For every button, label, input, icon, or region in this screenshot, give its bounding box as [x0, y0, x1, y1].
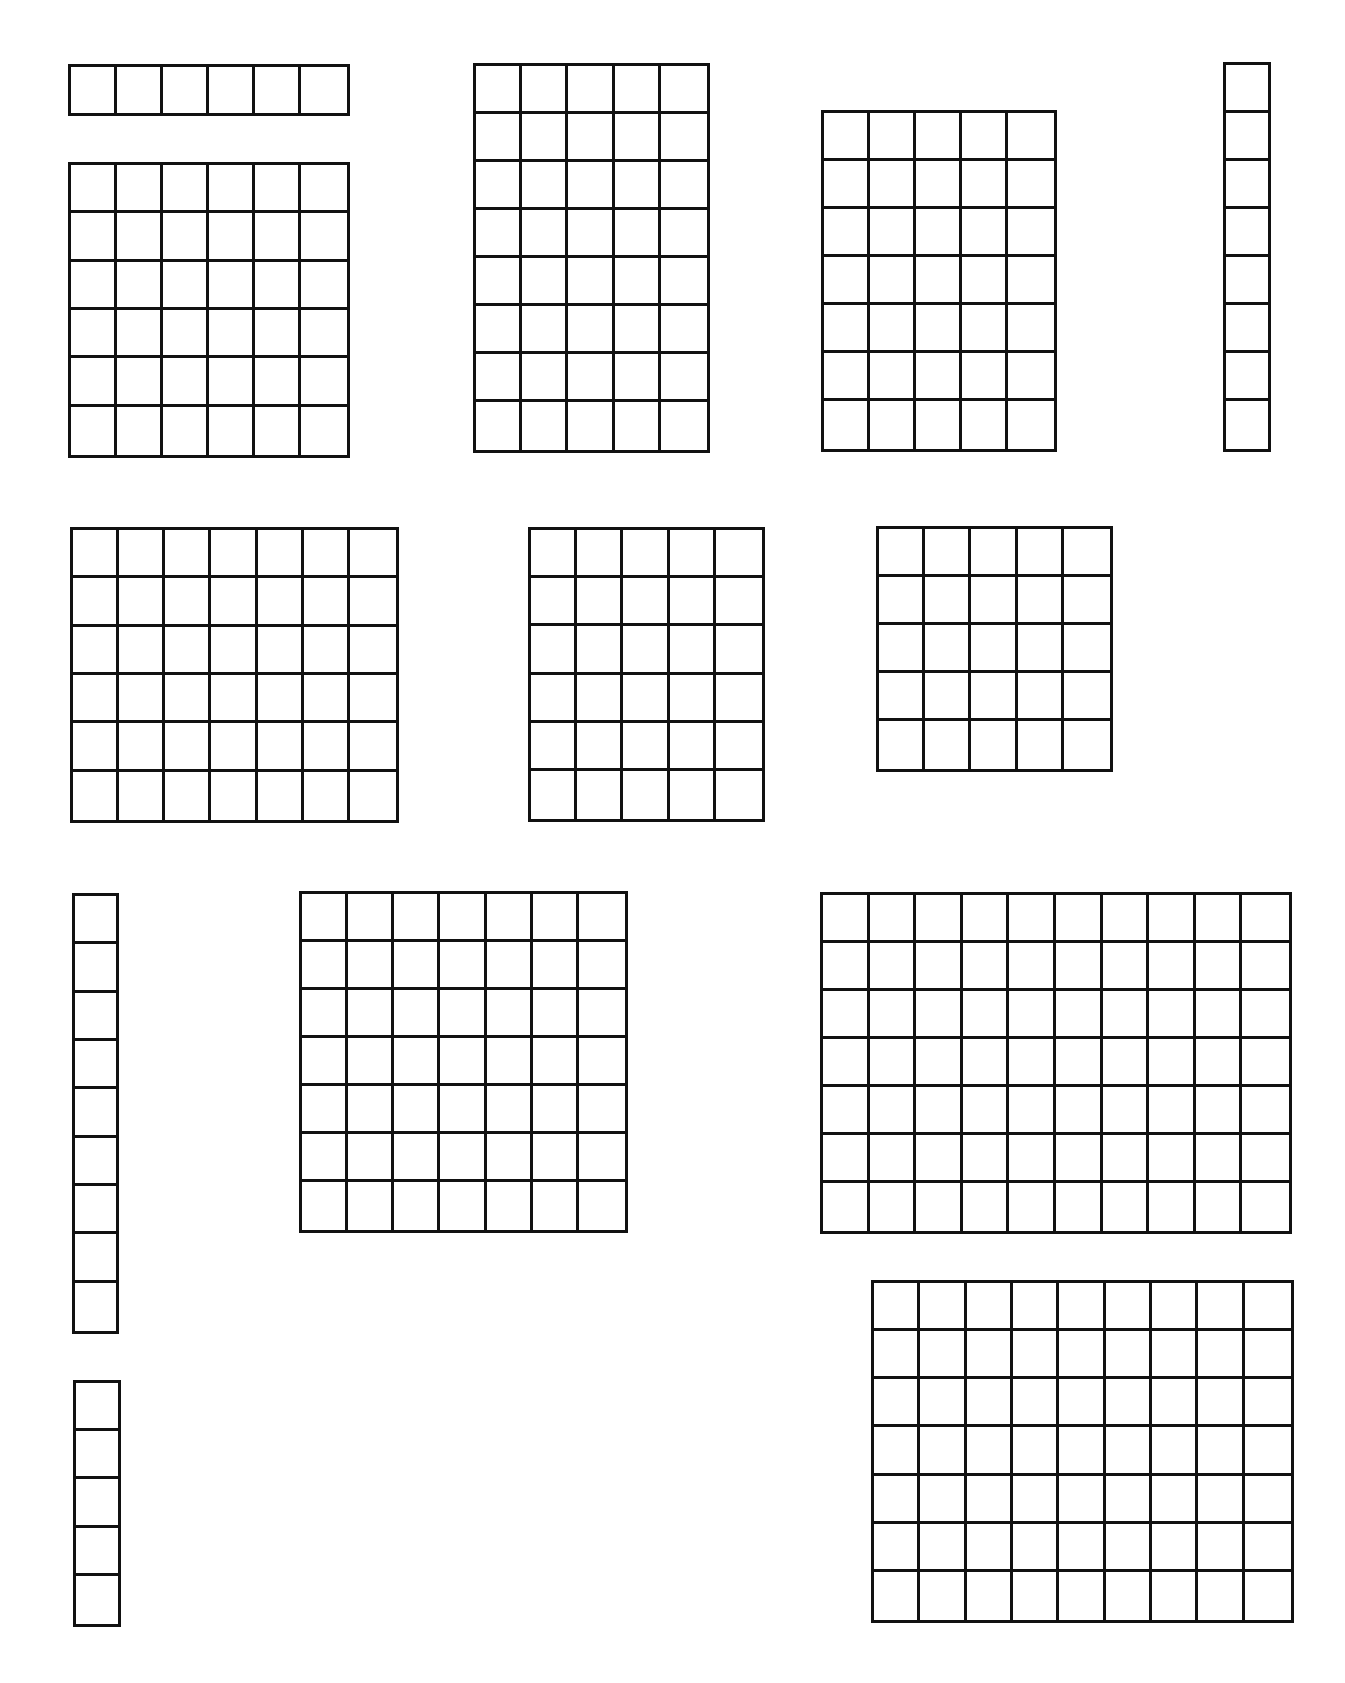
grid-cell: [1149, 1183, 1196, 1231]
grid-cell: [304, 530, 350, 578]
grid-cell: [1013, 1379, 1059, 1427]
grid-cell: [71, 213, 117, 261]
grid-cell: [348, 1038, 394, 1086]
grid-cell: [1226, 113, 1268, 161]
grid-cell: [348, 894, 394, 942]
grid-cell: [824, 353, 870, 401]
grid-cell: [522, 66, 568, 114]
grid-cell: [824, 257, 870, 305]
grid-cell: [577, 675, 623, 723]
grid-cell: [1008, 305, 1054, 353]
grid-cell: [73, 578, 119, 626]
grid-cell: [1242, 1135, 1289, 1183]
grid-cell: [73, 530, 119, 578]
grid-cell: [870, 257, 916, 305]
grid-cell: [925, 577, 971, 625]
grid-cell: [350, 530, 396, 578]
grid-cell: [211, 675, 257, 723]
grid-cell: [623, 626, 669, 674]
grid-cell: [615, 354, 661, 402]
grid-cell: [615, 210, 661, 258]
grid-cell: [1106, 1524, 1152, 1572]
grid-cell: [1226, 401, 1268, 449]
grid-cell: [487, 1134, 533, 1182]
grid-cell: [117, 213, 163, 261]
grid-cell: [870, 161, 916, 209]
grid-cell: [615, 258, 661, 306]
grid-cell: [117, 67, 163, 113]
grid-cell: [870, 401, 916, 449]
grid-cell: [476, 66, 522, 114]
grid-cell: [1198, 1379, 1244, 1427]
grid-cell: [255, 213, 301, 261]
grid-cell: [916, 161, 962, 209]
grid-cell: [1008, 353, 1054, 401]
grid-array-9x1: [72, 893, 119, 1334]
grid-cell: [1245, 1283, 1291, 1331]
grid-cell: [522, 402, 568, 450]
grid-cell: [1056, 1087, 1103, 1135]
grid-cell: [1018, 529, 1064, 577]
grid-cell: [301, 165, 347, 213]
grid-cell: [73, 675, 119, 723]
grid-cell: [874, 1331, 920, 1379]
grid-cell: [209, 407, 255, 455]
grid-cell: [920, 1283, 966, 1331]
grid-cell: [531, 530, 577, 578]
grid-cell: [119, 675, 165, 723]
grid-cell: [1056, 991, 1103, 1039]
grid-cell: [579, 990, 625, 1038]
grid-cell: [209, 165, 255, 213]
grid-cell: [1059, 1572, 1105, 1620]
grid-cell: [1152, 1331, 1198, 1379]
grid-cell: [348, 1182, 394, 1230]
grid-cell: [1056, 943, 1103, 991]
grid-array-7x10: [820, 892, 1292, 1234]
grid-cell: [531, 675, 577, 723]
grid-cell: [209, 358, 255, 406]
grid-cell: [1064, 625, 1110, 673]
grid-cell: [533, 1038, 579, 1086]
grid-cell: [75, 1234, 116, 1282]
grid-cell: [1242, 1087, 1289, 1135]
grid-cell: [1196, 895, 1243, 943]
grid-cell: [1009, 1087, 1056, 1135]
grid-cell: [301, 67, 347, 113]
grid-cell: [476, 402, 522, 450]
grid-cell: [394, 1134, 440, 1182]
grid-cell: [1242, 895, 1289, 943]
grid-cell: [1196, 991, 1243, 1039]
grid-cell: [1106, 1379, 1152, 1427]
grid-cell: [879, 625, 925, 673]
grid-cell: [165, 772, 211, 820]
grid-cell: [1196, 1135, 1243, 1183]
grid-cell: [119, 627, 165, 675]
grid-cell: [568, 354, 614, 402]
grid-cell: [874, 1283, 920, 1331]
grid-cell: [1059, 1379, 1105, 1427]
grid-cell: [577, 530, 623, 578]
grid-cell: [661, 114, 707, 162]
grid-cell: [623, 675, 669, 723]
grid-cell: [255, 407, 301, 455]
grid-cell: [823, 1183, 870, 1231]
grid-cell: [304, 578, 350, 626]
grid-cell: [1059, 1331, 1105, 1379]
grid-cell: [533, 1086, 579, 1134]
grid-cell: [1103, 1135, 1150, 1183]
grid-cell: [1106, 1427, 1152, 1475]
grid-cell: [967, 1331, 1013, 1379]
grid-cell: [1009, 1183, 1056, 1231]
grid-cell: [71, 165, 117, 213]
grid-cell: [1064, 721, 1110, 769]
grid-cell: [1196, 1087, 1243, 1135]
grid-cell: [71, 67, 117, 113]
grid-cell: [476, 162, 522, 210]
grid-cell: [1059, 1476, 1105, 1524]
grid-cell: [1245, 1331, 1291, 1379]
grid-cell: [76, 1576, 118, 1624]
grid-cell: [533, 894, 579, 942]
grid-array-6x7: [70, 527, 399, 823]
grid-cell: [1103, 1087, 1150, 1135]
grid-cell: [1056, 1183, 1103, 1231]
